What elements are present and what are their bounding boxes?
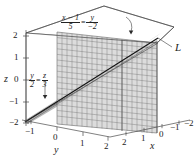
z-tick-2: 2 — [13, 31, 18, 40]
equation-left-right-denominator: 3 — [42, 81, 48, 89]
equation-top-left-denominator: 5 — [61, 23, 80, 31]
figure-3d-line: x − 1 5 = y −2 y 2 = z 3 L z 2 1 0 — [0, 0, 196, 156]
equation-top-left-fraction: x − 1 5 — [61, 14, 80, 31]
x-tick-1: 1 — [141, 134, 146, 143]
line-L-leader — [158, 38, 172, 47]
equation-top-right-fraction: y −2 — [86, 14, 97, 31]
equation-left-right-fraction: z 3 — [42, 72, 48, 89]
line-L-label: L — [175, 42, 181, 53]
x-tick-0: 0 — [159, 130, 164, 139]
equation-left: y 2 = z 3 — [29, 65, 48, 89]
grid-plane-surface — [57, 32, 157, 134]
z-tick-1: 1 — [14, 53, 19, 62]
y-tick-1: 1 — [80, 139, 85, 148]
z-tick-neg2: −2 — [9, 118, 19, 127]
z-tick-0: 0 — [14, 75, 19, 84]
z-tick-neg1: −1 — [9, 97, 19, 106]
y-axis-label: y — [54, 145, 58, 155]
equation-top: x − 1 5 = y −2 — [61, 7, 98, 31]
y-tick-0: 0 — [53, 133, 58, 142]
equation-left-left-fraction: y 2 — [29, 72, 35, 89]
x-tick-neg1: −1 — [170, 123, 180, 132]
equation-top-equals-sign: = — [81, 19, 86, 27]
x-tick-neg2: −2 — [184, 119, 194, 128]
z-axis-label: z — [4, 74, 8, 84]
equation-left-equals-sign: = — [36, 77, 41, 85]
x-axis-label: x — [150, 141, 154, 151]
y-tick-2: 2 — [104, 142, 109, 151]
x-tick-2: 2 — [122, 138, 127, 147]
equation-left-left-denominator: 2 — [29, 81, 35, 89]
y-tick-neg1: −1 — [25, 127, 35, 136]
equation-top-right-denominator: −2 — [86, 23, 97, 31]
